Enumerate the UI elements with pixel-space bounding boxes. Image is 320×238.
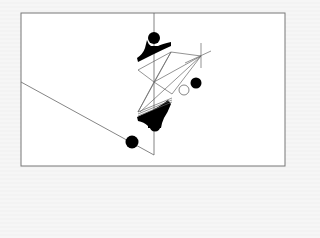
right-filled-circle <box>191 78 202 89</box>
geometric-diagram <box>0 0 303 180</box>
lower-filled-circle <box>150 121 161 132</box>
upper-filled-circle <box>148 32 160 44</box>
hollow-circle <box>179 85 189 95</box>
bottom-left-filled-circle <box>126 136 139 149</box>
